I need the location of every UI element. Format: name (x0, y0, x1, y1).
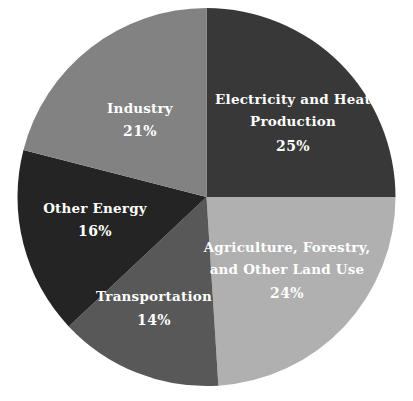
slice-value-transportation: 14% (137, 312, 171, 328)
slice-label-agriculture-line1: Agriculture, Forestry, (203, 239, 371, 255)
pie-slices (18, 8, 396, 386)
slice-label-other-energy: Other Energy (43, 200, 148, 216)
pie-chart: Electricity and Heat Production 25% Agri… (0, 0, 413, 401)
pie-chart-svg: Electricity and Heat Production 25% Agri… (0, 0, 413, 401)
slice-label-electricity-line2: Production (250, 113, 336, 129)
slice-label-electricity-line1: Electricity and Heat (215, 91, 371, 107)
slice-value-industry: 21% (123, 123, 157, 139)
slice-label-agriculture-line2: and Other Land Use (210, 261, 365, 277)
slice-label-transportation: Transportation (96, 288, 212, 304)
slice-label-industry: Industry (107, 100, 174, 116)
slice-value-other-energy: 16% (78, 223, 112, 239)
slice-value-electricity: 25% (276, 138, 310, 154)
slice-value-agriculture: 24% (270, 285, 304, 301)
